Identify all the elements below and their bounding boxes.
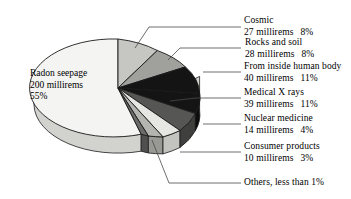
leader-line-rocks-and-soil [168,48,241,60]
callout-nuclear-medicine: Nuclear medicine 14 millirems4% [244,113,313,136]
callout-rocks-and-soil-percent: 8% [302,49,315,59]
callout-nuclear-medicine-values: 14 millirems4% [244,125,313,137]
callout-consumer-products-amount: 10 millirems [244,153,294,163]
callout-cosmic: Cosmic 27 millirems8% [244,15,313,38]
callout-others-title: Others, less than 1% [244,177,324,189]
callout-consumer-products: Consumer products 10 millirems3% [244,141,320,164]
callout-inside-human-body: From inside human body 40 millirems11% [244,61,341,84]
callout-inside-human-body-percent: 11% [301,73,318,83]
callout-rocks-and-soil-amount: 28 millirems [245,49,295,59]
callout-medical-xrays-percent: 11% [301,99,318,109]
slice-label-radon-percent: 55% [30,91,87,103]
callout-cosmic-amount: 27 millirems [244,27,294,37]
callout-nuclear-medicine-amount: 14 millirems [244,125,294,135]
callout-medical-xrays: Medical X rays 39 millirems11% [244,87,318,110]
callout-medical-xrays-title: Medical X rays [244,87,318,99]
callout-cosmic-percent: 8% [301,27,314,37]
callout-rocks-and-soil-title: Rocks and soil [245,37,314,49]
callout-inside-human-body-values: 40 millirems11% [244,73,341,85]
callout-rocks-and-soil: Rocks and soil 28 millirems8% [245,37,314,60]
leader-line-cosmic [135,27,241,48]
callout-medical-xrays-values: 39 millirems11% [244,99,318,111]
callout-consumer-products-percent: 3% [301,153,314,163]
slice-label-radon-amount: 200 millirems [30,80,87,92]
slice-side-consumer-products [148,136,163,154]
slice-side-others [141,134,148,153]
callout-others: Others, less than 1% [244,177,324,189]
callout-cosmic-title: Cosmic [244,15,313,27]
callout-rocks-and-soil-values: 28 millirems8% [245,49,314,61]
callout-inside-human-body-amount: 40 millirems [244,73,294,83]
callout-consumer-products-values: 10 millirems3% [244,153,320,165]
slice-label-radon-seepage: Radon seepage 200 millirems 55% [30,68,87,103]
callout-inside-human-body-title: From inside human body [244,61,341,73]
callout-medical-xrays-amount: 39 millirems [244,99,294,109]
slice-label-radon-name: Radon seepage [30,68,87,80]
callout-nuclear-medicine-percent: 4% [301,125,314,135]
callout-consumer-products-title: Consumer products [244,141,320,153]
pie-chart-figure: Radon seepage 200 millirems 55% Cosmic 2… [0,0,351,199]
callout-nuclear-medicine-title: Nuclear medicine [244,113,313,125]
